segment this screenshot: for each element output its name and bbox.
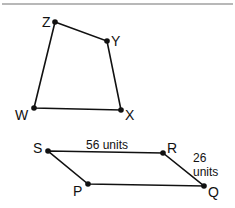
vertex-dot-x [118,107,124,113]
vertex-dot-q [201,183,207,189]
measure-label: 56 units [86,138,128,152]
parallelogram-pqrs-outline [48,151,204,186]
measure-label: 26 [193,151,207,165]
geometry-diagram: ZYXWSRQP56 units26units 56 units 26 unit… [0,0,235,208]
figures: ZYXWSRQP56 units26units [15,14,219,200]
vertex-label-y: Y [111,33,121,49]
vertex-label-w: W [15,107,29,123]
vertex-label-z: Z [42,14,51,30]
quadrilateral-wxyz-outline [34,22,121,110]
vertex-label-s: S [33,140,42,156]
vertex-label-q: Q [208,184,219,200]
vertex-dot-z [52,19,58,25]
vertex-dot-r [160,150,166,156]
vertex-dot-s [45,148,51,154]
vertex-dot-p [85,181,91,187]
vertex-label-p: P [73,183,82,199]
vertex-dot-y [104,38,110,44]
vertex-dot-w [31,105,37,111]
parallelogram-pqrs: SRQP56 units26units [33,138,219,200]
measure-label: units [193,165,218,179]
vertex-label-x: X [125,107,135,123]
vertex-label-r: R [167,140,177,156]
quadrilateral-wxyz: ZYXW [15,14,135,123]
